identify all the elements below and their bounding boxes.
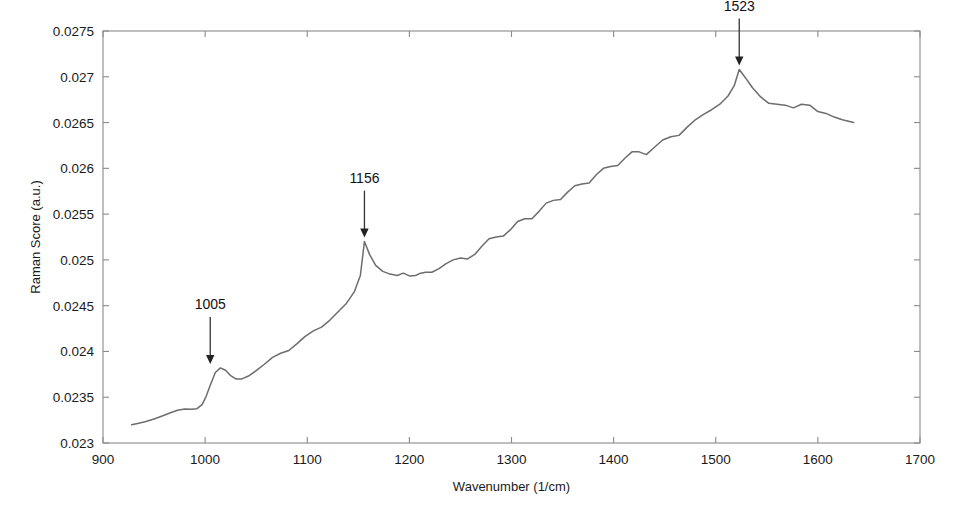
plot-frame: [103, 31, 920, 443]
raman-spectrum-figure: 900100011001200130014001500160017000.023…: [0, 0, 972, 509]
x-tick-label: 1100: [293, 452, 322, 467]
x-tick-label: 1600: [803, 452, 833, 467]
x-tick-label: 1000: [190, 452, 220, 467]
y-axis-label: Raman Score (a.u.): [28, 180, 43, 293]
annotation-label: 1156: [349, 170, 379, 186]
x-tick-label: 1400: [599, 452, 629, 467]
y-tick-label: 0.0235: [53, 390, 94, 405]
y-tick-label: 0.0275: [53, 24, 94, 39]
x-tick-label: 1700: [905, 452, 935, 467]
x-tick-label: 1200: [394, 452, 424, 467]
annotation-arrow-head: [206, 355, 214, 364]
annotation-arrow-head: [360, 229, 368, 238]
y-tick-label: 0.023: [60, 436, 94, 451]
x-axis-label: Wavenumber (1/cm): [453, 479, 570, 494]
x-tick-label: 1500: [701, 452, 731, 467]
y-tick-label: 0.0255: [53, 207, 94, 222]
annotation-arrow-head: [735, 56, 743, 65]
y-tick-label: 0.024: [60, 344, 94, 359]
x-tick-label: 1300: [496, 452, 526, 467]
y-tick-label: 0.026: [60, 161, 94, 176]
chart-canvas: 900100011001200130014001500160017000.023…: [0, 0, 972, 509]
annotation-label: 1523: [724, 0, 755, 14]
y-tick-label: 0.025: [60, 253, 94, 268]
annotation-label: 1005: [195, 296, 226, 312]
x-tick-label: 900: [92, 452, 115, 467]
spectrum-line: [132, 69, 854, 424]
y-tick-label: 0.027: [60, 70, 94, 85]
y-tick-label: 0.0245: [53, 299, 94, 314]
y-tick-label: 0.0265: [53, 116, 94, 131]
